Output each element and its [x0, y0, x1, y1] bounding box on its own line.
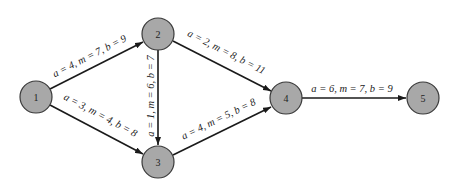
node-5: 5 [407, 82, 439, 114]
node-1-label: 1 [34, 92, 39, 103]
node-2-label: 2 [156, 29, 161, 40]
node-2: 2 [142, 18, 174, 50]
pert-network-diagram: a = 4, m = 7, b = 9 a = 3, m = 4, b = 8 … [0, 0, 460, 187]
node-1: 1 [20, 81, 52, 113]
edge-label-4-5: a = 6, m = 7, b = 9 [311, 83, 393, 94]
node-4: 4 [270, 82, 302, 114]
node-5-label: 5 [421, 93, 426, 104]
node-3-label: 3 [156, 157, 161, 168]
node-4-label: 4 [284, 93, 289, 104]
node-3: 3 [142, 146, 174, 178]
edge-label-2-3: a = 1, m = 6, b = 7 [145, 55, 156, 137]
